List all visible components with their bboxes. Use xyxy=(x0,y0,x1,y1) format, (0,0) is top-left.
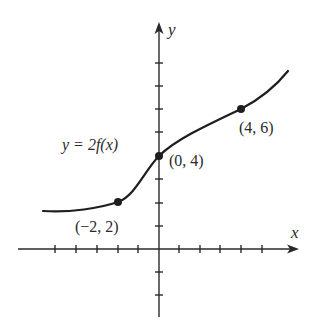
graph-canvas: y x y = 2f(x) (−2, 2) (0, 4) (4, 6) xyxy=(0,0,322,328)
point-label-neg2-2: (−2, 2) xyxy=(75,218,119,236)
point-label-0-4: (0, 4) xyxy=(169,152,204,170)
y-axis-label: y xyxy=(166,20,176,39)
point-0-4 xyxy=(155,152,163,160)
x-axis xyxy=(18,245,293,253)
point-4-6 xyxy=(237,105,245,113)
point-neg2-2 xyxy=(114,198,122,206)
y-axis xyxy=(155,28,163,317)
function-label: y = 2f(x) xyxy=(60,136,118,154)
x-axis-label: x xyxy=(290,223,299,242)
point-label-4-6: (4, 6) xyxy=(239,119,274,137)
